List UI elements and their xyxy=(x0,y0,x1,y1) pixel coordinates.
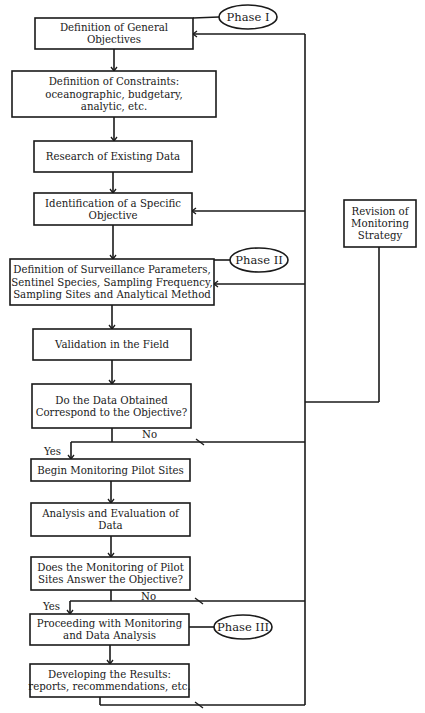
box-analysis-evaluation: Analysis and Evaluation ofData xyxy=(31,503,190,536)
box-text-line: Objective xyxy=(89,210,138,221)
phase-3-oval: Phase III xyxy=(214,615,272,639)
box-constraints: Definition of Constraints:oceanographic,… xyxy=(12,71,216,117)
box-text-line: Definition of General xyxy=(60,22,168,33)
box-text-line: reports, recommendations, etc. xyxy=(28,681,190,692)
no-label: No xyxy=(141,591,156,602)
box-text-line: analytic, etc. xyxy=(81,101,147,112)
box-general-objectives: Definition of GeneralObjectives xyxy=(35,18,193,49)
phase-3-label: Phase III xyxy=(217,620,269,634)
box-text-line: Does the Monitoring of Pilot xyxy=(37,562,184,573)
box-text-line: Analysis and Evaluation of xyxy=(41,508,180,519)
box-text-line: and Data Analysis xyxy=(63,630,156,641)
box-text-line: Objectives xyxy=(87,34,141,45)
box-text-line: Begin Monitoring Pilot Sites xyxy=(37,465,184,476)
box-developing-results: Developing the Results:reports, recommen… xyxy=(28,664,190,697)
box-text-line: oceanographic, budgetary, xyxy=(45,89,182,100)
box-text-line: Do the Data Obtained xyxy=(55,395,168,406)
box-data-correspond-question: Do the Data ObtainedCorrespond to the Ob… xyxy=(32,384,191,428)
box-text-line: Proceeding with Monitoring xyxy=(37,618,183,629)
phase-1-label: Phase I xyxy=(227,10,270,24)
box-text-line: Correspond to the Objective? xyxy=(36,407,188,418)
monitoring-strategy-flowchart: Definition of GeneralObjectivesDefinitio… xyxy=(0,0,425,713)
box-text-line: Identification of a Specific xyxy=(45,198,181,209)
box-text-line: Research of Existing Data xyxy=(46,151,180,162)
phase-1-connector xyxy=(193,17,219,18)
yes-label: Yes xyxy=(43,446,61,457)
box-text-line: Sites Answer the Objective? xyxy=(38,574,183,585)
phase-markers: Phase IPhase IIPhase III xyxy=(214,5,288,639)
no-label: No xyxy=(142,429,157,440)
box-proceed-monitoring: Proceeding with Monitoringand Data Analy… xyxy=(30,614,189,645)
box-text-line: Validation in the Field xyxy=(54,339,169,350)
phase-2-oval: Phase II xyxy=(230,248,288,272)
box-text-line: Monitoring xyxy=(351,218,409,229)
box-pilot-answer-question: Does the Monitoring of PilotSites Answer… xyxy=(31,557,190,590)
box-text-line: Definition of Constraints: xyxy=(49,76,180,87)
box-text-line: Definition of Surveillance Parameters, xyxy=(13,264,210,275)
box-text-line: Sentinel Species, Sampling Frequency, xyxy=(11,277,212,288)
box-surveillance-parameters: Definition of Surveillance Parameters,Se… xyxy=(10,259,214,305)
box-text-line: Revision of xyxy=(351,206,409,217)
connector-lines xyxy=(67,17,379,708)
yes-label: Yes xyxy=(42,601,60,612)
box-field-validation: Validation in the Field xyxy=(33,329,191,360)
box-text-line: Sampling Sites and Analytical Method xyxy=(13,289,211,300)
process-boxes: Definition of GeneralObjectivesDefinitio… xyxy=(10,18,416,697)
phase-2-label: Phase II xyxy=(235,253,282,267)
box-text-line: Strategy xyxy=(358,230,403,241)
box-revision-of-monitoring-strategy: Revision ofMonitoringStrategy xyxy=(344,200,416,247)
box-research-existing-data: Research of Existing Data xyxy=(34,141,192,172)
box-text-line: Developing the Results: xyxy=(48,669,171,680)
box-text-line: Data xyxy=(98,520,122,531)
box-specific-objective: Identification of a SpecificObjective xyxy=(34,193,192,225)
box-begin-pilot-sites: Begin Monitoring Pilot Sites xyxy=(31,459,190,481)
phase-1-oval: Phase I xyxy=(219,5,277,29)
